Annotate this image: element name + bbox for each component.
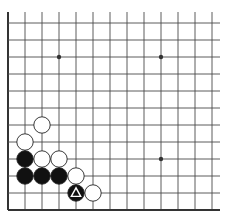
black-stone[interactable]: [34, 168, 50, 184]
go-board[interactable]: [0, 0, 229, 223]
white-stone[interactable]: [68, 168, 84, 184]
black-stone[interactable]: [68, 185, 84, 201]
star-point: [159, 55, 163, 59]
white-stone[interactable]: [85, 185, 101, 201]
black-stone[interactable]: [51, 168, 67, 184]
black-stone[interactable]: [17, 168, 33, 184]
star-point: [57, 55, 61, 59]
black-stone[interactable]: [17, 151, 33, 167]
white-stone[interactable]: [51, 151, 67, 167]
star-point: [159, 157, 163, 161]
white-stone[interactable]: [17, 134, 33, 150]
white-stone[interactable]: [34, 117, 50, 133]
white-stone[interactable]: [34, 151, 50, 167]
